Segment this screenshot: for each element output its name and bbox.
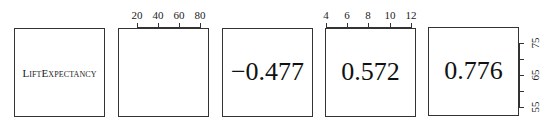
tick — [519, 43, 524, 44]
tick-label: 6 — [344, 9, 350, 21]
tick-label: 8 — [365, 9, 371, 21]
top-axis-panel-4: 4 6 8 10 12 — [325, 0, 417, 28]
tick-label: 60 — [174, 9, 185, 21]
tick-label: 12 — [406, 9, 417, 21]
tick — [519, 59, 524, 60]
tick — [519, 91, 524, 92]
tick-label: 40 — [153, 9, 164, 21]
correlation-value: 0.572 — [326, 57, 415, 87]
tick — [519, 107, 524, 108]
tick — [519, 75, 524, 76]
scatter-panel-empty — [118, 28, 209, 117]
correlation-value: 0.776 — [429, 56, 518, 86]
label-smallcaps-1: IFT — [29, 70, 41, 79]
tick-label: 75 — [529, 38, 541, 49]
tick-label: 65 — [529, 70, 541, 81]
tick-label: 10 — [385, 9, 396, 21]
correlation-panel-1: −0.477 — [222, 28, 313, 117]
correlation-panel-3: 0.776 — [428, 27, 519, 116]
variable-label: LIFTEXPECTANCY — [15, 67, 104, 79]
label-smallcaps-2: XPECTANCY — [48, 70, 96, 79]
tick-label: 4 — [323, 9, 329, 21]
correlation-panel-2: 0.572 — [325, 28, 416, 117]
tick-label: 20 — [132, 9, 143, 21]
right-axis-panel-5: 75 65 55 — [519, 0, 554, 127]
diagonal-label-panel: LIFTEXPECTANCY — [14, 28, 105, 117]
top-axis-panel-2: 20 40 60 80 — [118, 0, 210, 28]
tick-label: 55 — [529, 102, 541, 113]
tick-label: 80 — [195, 9, 206, 21]
correlation-value: −0.477 — [223, 57, 312, 87]
